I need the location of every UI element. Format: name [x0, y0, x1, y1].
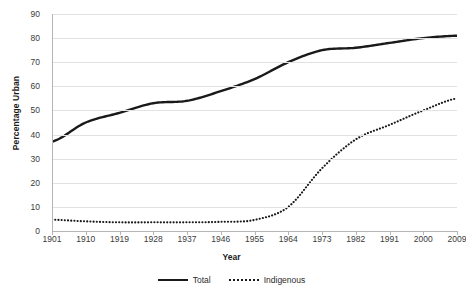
legend-item-total[interactable]: Total [158, 275, 211, 285]
gridline-50 [52, 110, 457, 111]
y-tick-label-90: 90 [0, 9, 40, 19]
y-tick-label-30: 30 [0, 154, 40, 164]
x-tick-label-1955: 1955 [245, 234, 264, 244]
x-tick-label-2009: 2009 [448, 234, 466, 244]
x-axis-tick-labels: 1901191019191928193719461955196419731982… [52, 234, 458, 250]
plot-area [52, 14, 457, 231]
x-tick-label-1919: 1919 [110, 234, 129, 244]
x-tick-label-1991: 1991 [380, 234, 399, 244]
x-tick-label-1928: 1928 [144, 234, 163, 244]
gridline-90 [52, 14, 457, 15]
legend-label-indigenous: Indigenous [264, 275, 306, 285]
y-tick-label-50: 50 [0, 105, 40, 115]
y-tick-label-0: 0 [0, 226, 40, 236]
gridline-10 [52, 207, 457, 208]
dotted-line-swatch [229, 279, 259, 281]
y-tick-label-70: 70 [0, 57, 40, 67]
y-tick-label-80: 80 [0, 33, 40, 43]
y-axis-line [52, 14, 53, 232]
gridline-80 [52, 38, 457, 39]
gridline-40 [52, 135, 457, 136]
solid-line-swatch [158, 279, 188, 281]
gridline-70 [52, 62, 457, 63]
gridline-60 [52, 86, 457, 87]
x-tick-label-1910: 1910 [76, 234, 95, 244]
x-tick-label-1982: 1982 [346, 234, 365, 244]
x-tick-label-1964: 1964 [279, 234, 298, 244]
x-tick-label-1946: 1946 [211, 234, 230, 244]
x-tick-label-2000: 2000 [414, 234, 433, 244]
x-tick-label-1901: 1901 [43, 234, 62, 244]
y-tick-label-20: 20 [0, 178, 40, 188]
x-tick-label-1937: 1937 [178, 234, 197, 244]
gridline-20 [52, 183, 457, 184]
gridlines [52, 14, 457, 231]
x-axis-title: Year [0, 252, 463, 262]
x-tick-label-1973: 1973 [313, 234, 332, 244]
legend-item-indigenous[interactable]: Indigenous [229, 275, 306, 285]
y-tick-label-60: 60 [0, 81, 40, 91]
legend-label-total: Total [193, 275, 211, 285]
y-tick-label-40: 40 [0, 130, 40, 140]
y-tick-label-10: 10 [0, 202, 40, 212]
chart-legend: Total Indigenous [0, 275, 463, 285]
gridline-30 [52, 159, 457, 160]
